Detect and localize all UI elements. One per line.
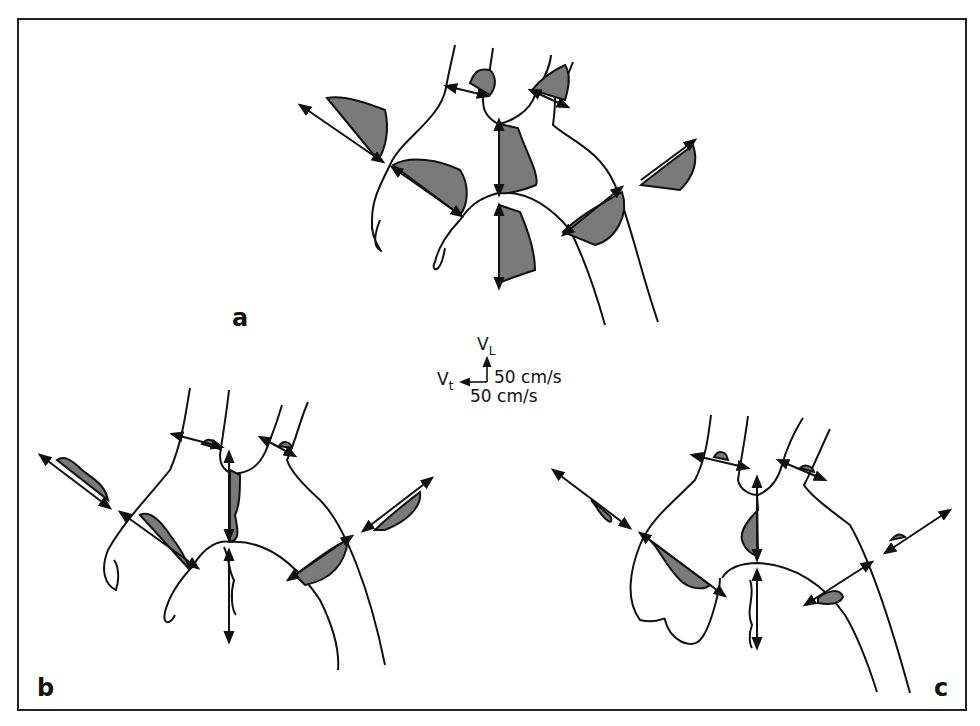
panel-c-diagram <box>553 415 950 693</box>
panel-b-diagram <box>40 388 432 670</box>
velocity-scale-axes <box>461 358 487 382</box>
panel-label-a: a <box>232 304 248 332</box>
legend-vt-scale: 50 cm/s <box>470 386 538 406</box>
panel-label-c: c <box>934 674 948 702</box>
panel-a-diagram <box>300 45 695 325</box>
aortic-arch-velocity-diagram <box>0 0 980 726</box>
panel-label-b: b <box>37 674 54 702</box>
legend-vl-scale: 50 cm/s <box>494 367 562 387</box>
legend-vl-label: VL <box>477 334 495 354</box>
legend-vt-label: Vt <box>437 369 453 389</box>
